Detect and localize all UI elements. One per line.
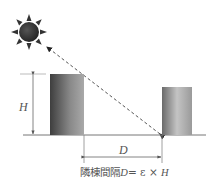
- caption-times: ×: [149, 166, 158, 178]
- caption-epsilon: ε: [140, 166, 145, 178]
- caption: 隣棟間隔D= ε × H: [0, 164, 221, 179]
- rear-building: [162, 87, 192, 135]
- front-building: [50, 74, 84, 135]
- sun-icon: [11, 14, 47, 50]
- caption-prefix: 隣棟間隔: [80, 166, 120, 178]
- caption-var-d: D: [120, 167, 128, 178]
- caption-var-h: H: [161, 167, 169, 178]
- distance-label: D: [119, 143, 128, 158]
- caption-equals: =: [128, 166, 137, 178]
- height-label: H: [19, 100, 28, 115]
